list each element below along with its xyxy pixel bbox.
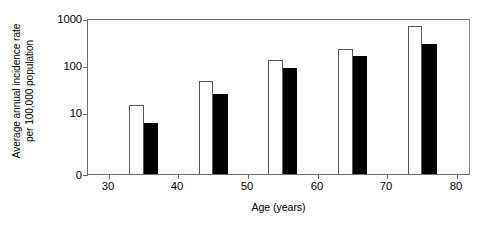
y-axis-title: Average annual incidence rateper 100,000… bbox=[10, 6, 36, 176]
bar-filled-age-35 bbox=[144, 123, 159, 174]
bar-filled-age-45 bbox=[213, 94, 228, 174]
y-axis-title-line2: per 100,000 population bbox=[23, 6, 36, 176]
bar-open-age-65 bbox=[338, 49, 353, 174]
y-axis-tick-labels: 1000 100 10 0 bbox=[36, 0, 82, 200]
chart-figure: Average annual incidence rateper 100,000… bbox=[0, 0, 486, 227]
x-tick-mark-40 bbox=[178, 174, 179, 179]
bar-filled-age-55 bbox=[283, 68, 298, 174]
plot-area bbox=[87, 19, 470, 175]
x-tick-mark-50 bbox=[248, 174, 249, 179]
x-tick-label-70: 70 bbox=[366, 181, 406, 192]
y-tick-label-1000: 1000 bbox=[36, 14, 82, 25]
y-tick-label-0: 0 bbox=[36, 170, 82, 181]
bar-open-age-45 bbox=[199, 81, 214, 174]
bar-filled-age-75 bbox=[422, 44, 437, 174]
y-tick-label-100: 100 bbox=[36, 61, 82, 72]
x-tick-label-40: 40 bbox=[157, 181, 197, 192]
x-tick-label-80: 80 bbox=[436, 181, 476, 192]
y-tick-mark-10 bbox=[83, 114, 88, 115]
x-tick-mark-70 bbox=[387, 174, 388, 179]
bar-open-age-35 bbox=[129, 105, 144, 174]
bar-filled-age-65 bbox=[353, 56, 368, 174]
bar-open-age-55 bbox=[268, 60, 283, 174]
x-tick-label-50: 50 bbox=[227, 181, 267, 192]
x-tick-mark-30 bbox=[109, 174, 110, 179]
x-tick-label-30: 30 bbox=[88, 181, 128, 192]
y-axis-title-line1: Average annual incidence rate bbox=[11, 24, 22, 159]
x-tick-label-60: 60 bbox=[297, 181, 337, 192]
x-tick-mark-80 bbox=[457, 174, 458, 179]
y-tick-mark-0 bbox=[83, 175, 88, 176]
x-axis-title: Age (years) bbox=[87, 201, 470, 213]
bar-open-age-75 bbox=[408, 26, 423, 174]
y-tick-mark-1000 bbox=[83, 20, 88, 21]
y-tick-mark-100 bbox=[83, 67, 88, 68]
y-tick-label-10: 10 bbox=[36, 108, 82, 119]
x-tick-mark-60 bbox=[318, 174, 319, 179]
